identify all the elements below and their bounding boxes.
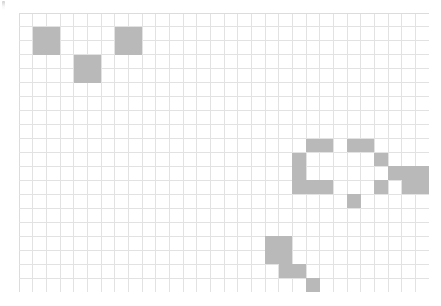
grid-cell-2-1[interactable] bbox=[46, 27, 60, 41]
grid-cell-5-4[interactable] bbox=[87, 69, 101, 83]
grid-cell-29-11[interactable] bbox=[415, 166, 429, 180]
grid-cell-5-3[interactable] bbox=[87, 55, 101, 69]
grid-cell-7-1[interactable] bbox=[115, 27, 129, 41]
grid-cell-8-1[interactable] bbox=[128, 27, 142, 41]
grid-cell-4-4[interactable] bbox=[74, 69, 88, 83]
grid-cell-4-3[interactable] bbox=[74, 55, 88, 69]
grid-cell-20-12[interactable] bbox=[292, 180, 306, 194]
canvas-root bbox=[0, 0, 441, 306]
grid-cell-26-10[interactable] bbox=[374, 153, 388, 167]
grid-cell-28-12[interactable] bbox=[402, 180, 416, 194]
grid-cell-24-9[interactable] bbox=[347, 139, 361, 153]
grid-cell-20-10[interactable] bbox=[292, 153, 306, 167]
grid-cell-2-2[interactable] bbox=[46, 41, 60, 55]
grid-cell-20-18[interactable] bbox=[292, 264, 306, 278]
grid-cell-7-2[interactable] bbox=[115, 41, 129, 55]
grid-cell-21-19[interactable] bbox=[306, 278, 320, 292]
grid-cell-21-9[interactable] bbox=[306, 139, 320, 153]
grid-cell-21-12[interactable] bbox=[306, 180, 320, 194]
grid-cell-18-16[interactable] bbox=[265, 236, 279, 250]
grid-cell-18-17[interactable] bbox=[265, 250, 279, 264]
grid-cell-19-17[interactable] bbox=[279, 250, 293, 264]
corner-artifact-mark bbox=[2, 1, 5, 10]
grid-cell-22-9[interactable] bbox=[320, 139, 334, 153]
grid-cell-28-11[interactable] bbox=[402, 166, 416, 180]
grid-cell-1-2[interactable] bbox=[33, 41, 47, 55]
grid-cell-19-18[interactable] bbox=[279, 264, 293, 278]
grid-cell-25-9[interactable] bbox=[361, 139, 375, 153]
grid-cells-layer[interactable] bbox=[19, 13, 429, 292]
grid-cell-20-11[interactable] bbox=[292, 166, 306, 180]
grid-cell-24-13[interactable] bbox=[347, 194, 361, 208]
grid-cell-27-11[interactable] bbox=[388, 166, 402, 180]
grid-cell-1-1[interactable] bbox=[33, 27, 47, 41]
grid-cell-8-2[interactable] bbox=[128, 41, 142, 55]
grid-cell-19-16[interactable] bbox=[279, 236, 293, 250]
grid-cell-29-12[interactable] bbox=[415, 180, 429, 194]
grid-cell-22-12[interactable] bbox=[320, 180, 334, 194]
grid-cell-26-12[interactable] bbox=[374, 180, 388, 194]
grid-panel[interactable] bbox=[19, 13, 429, 292]
